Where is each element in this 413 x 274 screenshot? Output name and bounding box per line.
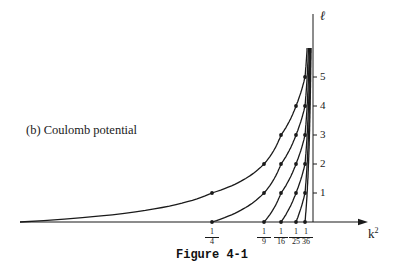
figure-caption: Figure 4-1 <box>176 248 248 262</box>
y-tick-2: 2 <box>320 157 326 169</box>
data-point <box>210 220 214 224</box>
data-point <box>303 191 307 195</box>
x-tick-thirtysixth: 136 <box>299 228 313 246</box>
data-point <box>303 75 307 79</box>
x-tick-sixteenth: 116 <box>274 228 288 246</box>
x-tick-ninth: 19 <box>257 228 271 246</box>
curve-nr-1 <box>212 48 309 222</box>
data-point <box>262 191 266 195</box>
curve-nr-2 <box>264 48 309 222</box>
data-point <box>294 162 298 166</box>
y-tick-3: 3 <box>320 128 326 140</box>
data-point <box>303 104 307 108</box>
data-point <box>303 220 307 224</box>
data-point <box>279 191 283 195</box>
data-point <box>294 104 298 108</box>
data-point <box>279 133 283 137</box>
x-tick-quarter: 14 <box>205 228 219 246</box>
y-tick-4: 4 <box>320 99 326 111</box>
data-point <box>279 162 283 166</box>
y-axis-label: ℓ <box>320 8 325 24</box>
panel-title: (b) Coulomb potential <box>26 123 137 138</box>
data-point <box>303 133 307 137</box>
y-axis-ticks <box>313 77 317 193</box>
data-point <box>294 133 298 137</box>
x-axis-arrow-icon <box>358 219 368 225</box>
axes <box>20 14 368 225</box>
data-point <box>294 220 298 224</box>
data-point <box>303 162 307 166</box>
data-point <box>262 220 266 224</box>
y-tick-1: 1 <box>320 186 326 198</box>
y-tick-5: 5 <box>320 70 326 82</box>
data-point <box>262 162 266 166</box>
data-point <box>279 220 283 224</box>
x-axis-label: k2 <box>368 226 379 242</box>
data-point <box>294 191 298 195</box>
data-point <box>210 191 214 195</box>
x-axis-label-sup: 2 <box>375 226 379 235</box>
